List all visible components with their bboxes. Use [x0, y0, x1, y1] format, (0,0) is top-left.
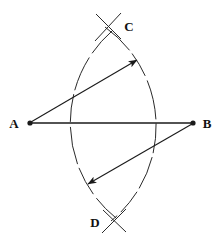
- point-a-marker: [27, 120, 32, 125]
- point-label-c: C: [124, 19, 133, 34]
- radius-arrow-a-to-c: [31, 60, 137, 122]
- point-label-b: B: [203, 116, 212, 131]
- geometry-diagram: A B C D: [0, 0, 220, 247]
- construction-canvas: A B C D: [0, 0, 220, 247]
- point-label-d: D: [90, 215, 99, 230]
- arc-from-a: [105, 27, 156, 221]
- arc-from-b: [70, 31, 116, 218]
- radius-arrow-b-to-d: [88, 124, 192, 184]
- point-b-marker: [190, 120, 195, 125]
- point-label-a: A: [9, 116, 19, 131]
